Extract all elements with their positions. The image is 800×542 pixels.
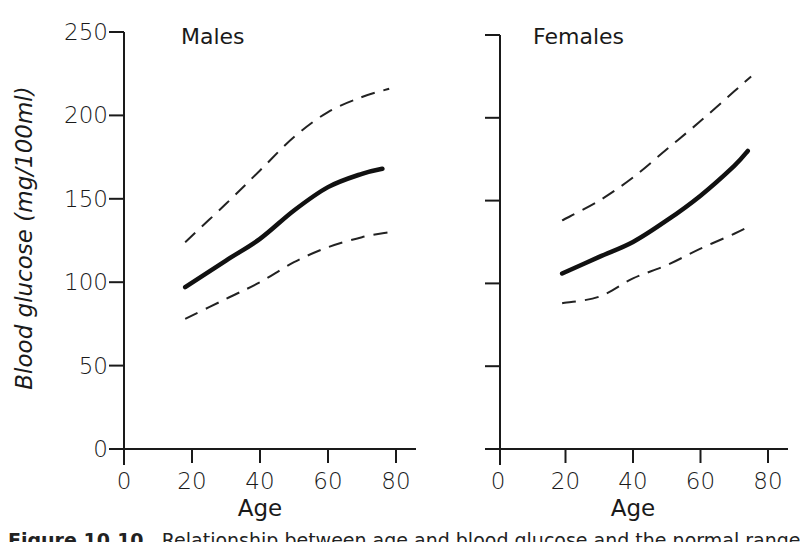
- females-panel: Females020406080Age: [485, 24, 788, 521]
- y-tick-label: 250: [64, 19, 108, 45]
- x-tick-label: 40: [245, 468, 274, 494]
- x-tick-label: 80: [753, 468, 782, 494]
- x-axis-title: Age: [238, 495, 282, 521]
- upper-limit-line: [185, 89, 389, 242]
- y-tick-label: 150: [64, 186, 108, 212]
- x-tick-label: 40: [618, 468, 647, 494]
- caption-figure-number: Figure 10.10: [8, 529, 144, 542]
- x-tick-label: 20: [551, 468, 580, 494]
- panel-title: Females: [533, 24, 624, 49]
- panel-title: Males: [181, 24, 245, 49]
- lower-limit-line: [562, 225, 751, 303]
- x-tick-label: 80: [381, 468, 410, 494]
- mean-line: [185, 169, 382, 287]
- x-tick-label: 60: [686, 468, 715, 494]
- lower-limit-line: [185, 232, 389, 319]
- x-tick-label: 0: [491, 468, 506, 494]
- figure-caption: Figure 10.10 Relationship between age an…: [8, 528, 800, 542]
- y-tick-label: 50: [79, 353, 108, 379]
- mean-line: [562, 151, 748, 274]
- y-tick-label: 100: [64, 269, 108, 295]
- y-tick-label: 200: [64, 102, 108, 128]
- x-tick-label: 20: [177, 468, 206, 494]
- caption-text: Relationship between age and blood gluco…: [162, 529, 800, 542]
- x-tick-label: 60: [313, 468, 342, 494]
- y-tick-label: 0: [93, 436, 108, 462]
- x-tick-label: 0: [117, 468, 132, 494]
- upper-limit-line: [562, 76, 751, 220]
- males-panel: Males050100150200250020406080Age: [64, 19, 416, 521]
- x-axis-title: Age: [611, 495, 655, 521]
- y-axis-title: Blood glucose (mg/100ml): [11, 86, 37, 389]
